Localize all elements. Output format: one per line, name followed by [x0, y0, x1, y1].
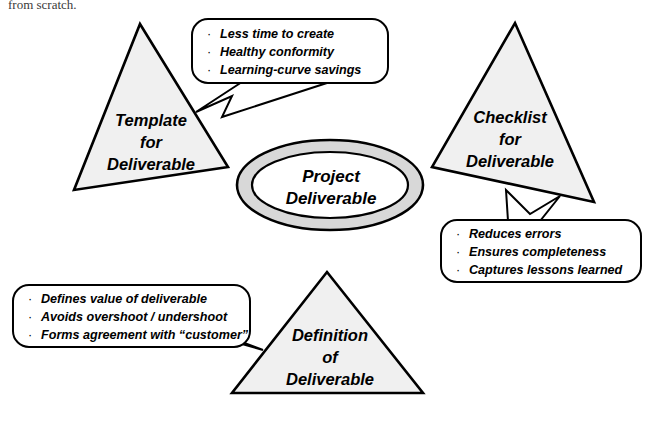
callout-template-bullet-2: Healthy conformity — [220, 45, 335, 59]
callout-template-bullet-dot-1: · — [207, 27, 211, 41]
definition-label-line2: of — [322, 348, 339, 366]
callout-definition-bullet-dot-3: · — [28, 328, 32, 342]
callout-definition-bullet-dot-2: · — [28, 310, 32, 324]
callout-checklist-tail — [506, 190, 560, 221]
checklist-label-line3: Deliverable — [466, 152, 554, 170]
callout-definition-bullet-3: Forms agreement with “customer” — [41, 328, 249, 342]
page-cutoff-text: from scratch. — [8, 0, 77, 12]
checklist-label-line2: for — [499, 130, 523, 148]
callout-checklist-bullet-dot-1: · — [456, 227, 460, 241]
node-checklist[interactable]: Checklist for Deliverable — [432, 23, 594, 202]
callout-definition-bullet-dot-1: · — [28, 292, 32, 306]
callout-template-bullet-3: Learning-curve savings — [220, 63, 361, 77]
template-label-line1: Template — [115, 111, 187, 129]
center-label-line2: Deliverable — [286, 189, 377, 208]
callout-template-bullet-dot-2: · — [207, 45, 211, 59]
callout-definition-benefits[interactable]: · Defines value of deliverable · Avoids … — [13, 285, 263, 350]
callout-checklist-bullet-dot-3: · — [456, 263, 460, 277]
checklist-label-line1: Checklist — [473, 108, 548, 126]
callout-definition-bullet-2: Avoids overshoot / undershoot — [40, 310, 228, 324]
callout-checklist-bullet-3: Captures lessons learned — [469, 263, 623, 277]
callout-checklist-benefits[interactable]: · Reduces errors · Ensures completeness … — [441, 190, 641, 282]
callout-checklist-bullet-dot-2: · — [456, 245, 460, 259]
template-label-line2: for — [140, 133, 164, 151]
callout-template-bullet-dot-3: · — [207, 63, 211, 77]
node-project-deliverable[interactable]: Project Deliverable — [237, 140, 423, 230]
node-definition[interactable]: Definition of Deliverable — [232, 272, 423, 393]
center-label-line1: Project — [302, 167, 361, 186]
callout-checklist-bullet-1: Reduces errors — [469, 227, 561, 241]
definition-label-line1: Definition — [292, 326, 368, 344]
callout-definition-bullet-1: Defines value of deliverable — [41, 292, 207, 306]
template-label-line3: Deliverable — [107, 155, 195, 173]
callout-template-tail — [196, 80, 330, 117]
callout-template-benefits[interactable]: · Less time to create · Healthy conformi… — [192, 19, 388, 117]
callout-checklist-bullet-2: Ensures completeness — [469, 245, 606, 259]
callout-template-bullet-1: Less time to create — [220, 27, 334, 41]
definition-label-line3: Deliverable — [286, 370, 374, 388]
deliverable-diagram: from scratch. Template for Deliverable C… — [0, 0, 654, 427]
